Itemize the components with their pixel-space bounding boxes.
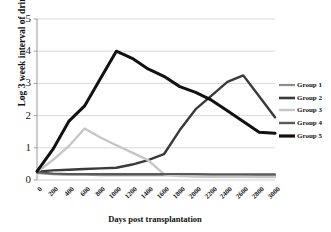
legend-swatch-icon [279, 119, 295, 127]
chart-container: Log 3 week interval of drinks Days post … [0, 0, 331, 232]
legend-swatch-icon [279, 106, 295, 114]
legend-label: Group 5 [297, 132, 322, 140]
legend-swatch-icon [279, 81, 295, 89]
axis-lines [34, 19, 37, 180]
legend: Group 1 Group 2 Group 3 Group 4 Group 5 [279, 79, 331, 142]
series-line [37, 51, 275, 171]
legend-item[interactable]: Group 3 [279, 104, 331, 117]
legend-swatch-icon [279, 94, 295, 102]
gridlines [37, 19, 275, 180]
legend-item[interactable]: Group 1 [279, 79, 331, 92]
series-line [37, 75, 275, 171]
legend-label: Group 1 [297, 81, 322, 89]
legend-label: Group 3 [297, 106, 322, 114]
legend-item[interactable]: Group 4 [279, 117, 331, 130]
data-series-layer [37, 51, 275, 177]
legend-item[interactable]: Group 2 [279, 92, 331, 105]
legend-label: Group 2 [297, 94, 322, 102]
series-line [37, 172, 275, 174]
legend-label: Group 4 [297, 119, 322, 127]
legend-swatch-icon [279, 132, 295, 140]
legend-item[interactable]: Group 5 [279, 129, 331, 142]
